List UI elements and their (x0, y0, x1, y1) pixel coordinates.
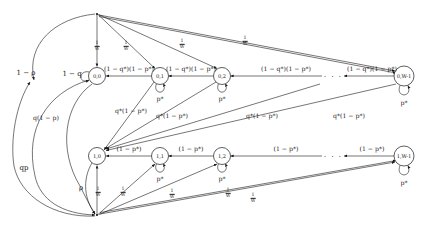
hub-bottom-dot (96, 214, 98, 216)
fraction-denominator: W (124, 47, 129, 52)
state-label-0-0: 0,0 (93, 73, 101, 79)
fraction-label-bottom-5: 1 W (251, 193, 256, 203)
edge-label-diag-03: q*(1 − p*) (246, 112, 278, 119)
fraction-denominator: W (170, 195, 175, 200)
fraction-label-top-2: 1 W (124, 41, 129, 51)
self-loop-label-00: 1 − q (62, 70, 81, 78)
self-loop-label-0W: p* (400, 99, 407, 106)
fraction-label-top-3: 1 W (180, 39, 185, 49)
fraction-label-top-1: 1 W (95, 41, 100, 51)
fraction-denominator: W (96, 193, 101, 198)
diagram-canvas: 0,0 0,1 0,2 0,W-1 1,0 1,1 1,2 1,W-1 · · … (0, 0, 439, 237)
edge-label-diag-01: q*(1 − p*) (115, 107, 147, 114)
self-loop-label-11: p* (156, 175, 163, 182)
edge-label-11-to-10: (1 − p*) (117, 145, 142, 152)
bottom-hub-fan (97, 161, 396, 216)
fraction-label-bottom-4: 1 W (226, 188, 231, 198)
ellipsis-bottom: · · · (324, 152, 343, 161)
outer-label-rho: ρ (79, 184, 83, 192)
edge-label-02-to-01: (1 − q*)(1 − p*) (166, 65, 216, 72)
state-label-1-0: 1,0 (93, 153, 101, 159)
edge-label-0W-to-0W2: (1 − q*)(1 − p*) (347, 65, 397, 72)
fraction-label-top-4: 1 W (243, 36, 248, 46)
fraction-denominator: W (251, 199, 256, 204)
outer-label-qp: qp (20, 164, 29, 172)
fraction-label-bottom-3: 1 W (170, 189, 175, 199)
self-loop-label-12: p* (218, 175, 225, 182)
outer-label-q-1-minus-p: q(1 − p) (33, 114, 59, 121)
self-loop-0W (399, 86, 409, 95)
self-loop-label-01: p* (156, 95, 163, 102)
self-loop-label-02: p* (218, 95, 225, 102)
fraction-denominator: W (95, 47, 100, 52)
edge-label-12-to-11: (1 − p*) (179, 145, 204, 152)
fraction-label-bottom-1: 1 W (96, 187, 101, 197)
state-label-1-1: 1,1 (156, 153, 164, 159)
state-label-1-W1: 1,W-1 (397, 153, 411, 159)
edge-label-diag-02: q*(1 − p*) (156, 112, 188, 119)
self-loop-label-1W: p* (400, 179, 407, 186)
edge-label-03-to-02: (1 − q*)(1 − p*) (261, 65, 311, 72)
edge-label-diag-0W: q*(1 − p*) (333, 112, 365, 119)
edge-label-1W-to-1W2: (1 − p*) (360, 145, 385, 152)
fraction-label-bottom-2: 1 W (121, 187, 126, 197)
state-label-0-1: 0,1 (156, 73, 164, 79)
edge-label-13-to-12: (1 − p*) (274, 145, 299, 152)
fraction-denominator: W (121, 193, 126, 198)
fraction-denominator: W (226, 194, 231, 199)
diagram-svg (0, 0, 439, 237)
hub-top-dot (96, 13, 98, 15)
outer-label-1-minus-rho: 1 − ρ (17, 69, 36, 77)
state-label-0-2: 0,2 (218, 73, 226, 79)
fraction-denominator: W (243, 42, 248, 47)
state-label-0-W1: 0,W-1 (397, 73, 411, 79)
self-loop-1W (399, 166, 409, 175)
state-label-1-2: 1,2 (218, 153, 226, 159)
fraction-denominator: W (180, 45, 185, 50)
edge-label-01-to-00: (1 − q*)(1 − p*) (104, 65, 154, 72)
ellipsis-top: · · · (324, 72, 343, 81)
